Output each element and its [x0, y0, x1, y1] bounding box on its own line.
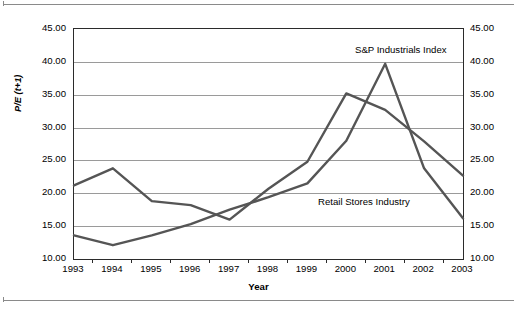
- y-tick-label-right: 15.00: [470, 220, 494, 230]
- series-lines: [74, 29, 463, 259]
- y-tick-label-right: 40.00: [470, 56, 494, 66]
- y-tick-label-left: 10.00: [22, 253, 66, 263]
- y-axis-title: P/E (t+1): [13, 98, 23, 112]
- y-tick-label-right: 25.00: [470, 154, 494, 164]
- x-axis-title: Year: [0, 281, 517, 292]
- y-tick-label-right: 30.00: [470, 122, 494, 132]
- y-tick-label-left: 30.00: [22, 122, 66, 132]
- figure-top-rule: [3, 4, 514, 5]
- plot-area: [73, 28, 464, 260]
- y-tick-label-right: 35.00: [470, 89, 494, 99]
- x-tick-label: 2003: [442, 263, 482, 274]
- y-tick-label-left: 25.00: [22, 154, 66, 164]
- x-tick-label: 1995: [131, 263, 171, 274]
- series-line: [74, 64, 463, 245]
- figure-bottom-rule-stub: [3, 297, 4, 302]
- x-tick-label: 1996: [170, 263, 210, 274]
- x-tick-label: 1999: [286, 263, 326, 274]
- y-tick-label-left: 40.00: [22, 56, 66, 66]
- x-tick-label: 1993: [53, 263, 93, 274]
- x-tick-label: 1998: [248, 263, 288, 274]
- figure-container: P/E (t+1) 45.0040.0035.0030.0025.0020.00…: [0, 0, 517, 312]
- x-tick-label: 2000: [325, 263, 365, 274]
- y-tick-label-left: 35.00: [22, 89, 66, 99]
- y-tick-label-right: 20.00: [470, 187, 494, 197]
- y-tick-label-left: 15.00: [22, 220, 66, 230]
- figure-top-rule-stub: [3, 1, 4, 6]
- x-tick-label: 2001: [364, 263, 404, 274]
- y-tick-label-left: 20.00: [22, 187, 66, 197]
- x-tick-label: 1997: [209, 263, 249, 274]
- series-label-sp-industrials: S&P Industrials Index: [355, 44, 447, 55]
- y-tick-label-right: 45.00: [470, 23, 494, 33]
- series-label-retail-stores: Retail Stores Industry: [318, 196, 410, 207]
- y-tick-label-right: 10.00: [470, 253, 494, 263]
- y-tick-label-left: 45.00: [22, 23, 66, 33]
- x-tick-label: 2002: [403, 263, 443, 274]
- x-tick-label: 1994: [92, 263, 132, 274]
- figure-bottom-rule: [3, 300, 514, 301]
